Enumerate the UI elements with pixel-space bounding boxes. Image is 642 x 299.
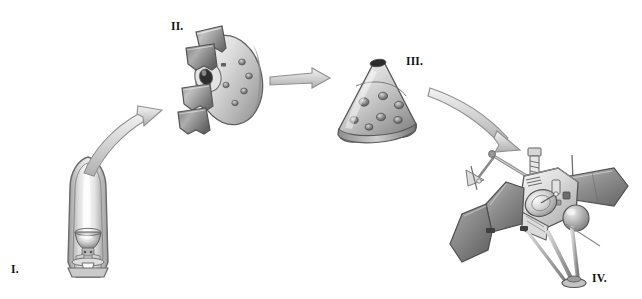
- landing-legs: [528, 228, 586, 288]
- arrow-stage2-to-stage3: [270, 68, 330, 88]
- arrow-stage1-to-stage2: [84, 106, 162, 176]
- fairing-base: [68, 268, 108, 277]
- figure-root: I. II. III. IV.: [0, 0, 642, 299]
- stage-label-4: IV.: [592, 272, 607, 284]
- stage-label-2: II.: [171, 20, 183, 32]
- stage-4-deployed-spacecraft: [450, 148, 628, 288]
- deployment-sequence-illustration: [0, 0, 642, 299]
- solar-panel-right: [570, 168, 628, 206]
- solar-panel-left-inner: [486, 182, 524, 232]
- solar-panel-hinge: [520, 226, 528, 231]
- stage-2-shroud-separation: [178, 26, 271, 134]
- stage-1-launch-fairing: [68, 157, 108, 277]
- stage-label-1: I.: [11, 263, 19, 275]
- propellant-tank: [563, 205, 589, 231]
- solar-panel-left-outer: [450, 204, 495, 262]
- stage-label-3: III.: [406, 55, 423, 67]
- arrow-stage3-to-stage4: [428, 88, 520, 152]
- stage-3-aeroshell-cone: [338, 58, 416, 143]
